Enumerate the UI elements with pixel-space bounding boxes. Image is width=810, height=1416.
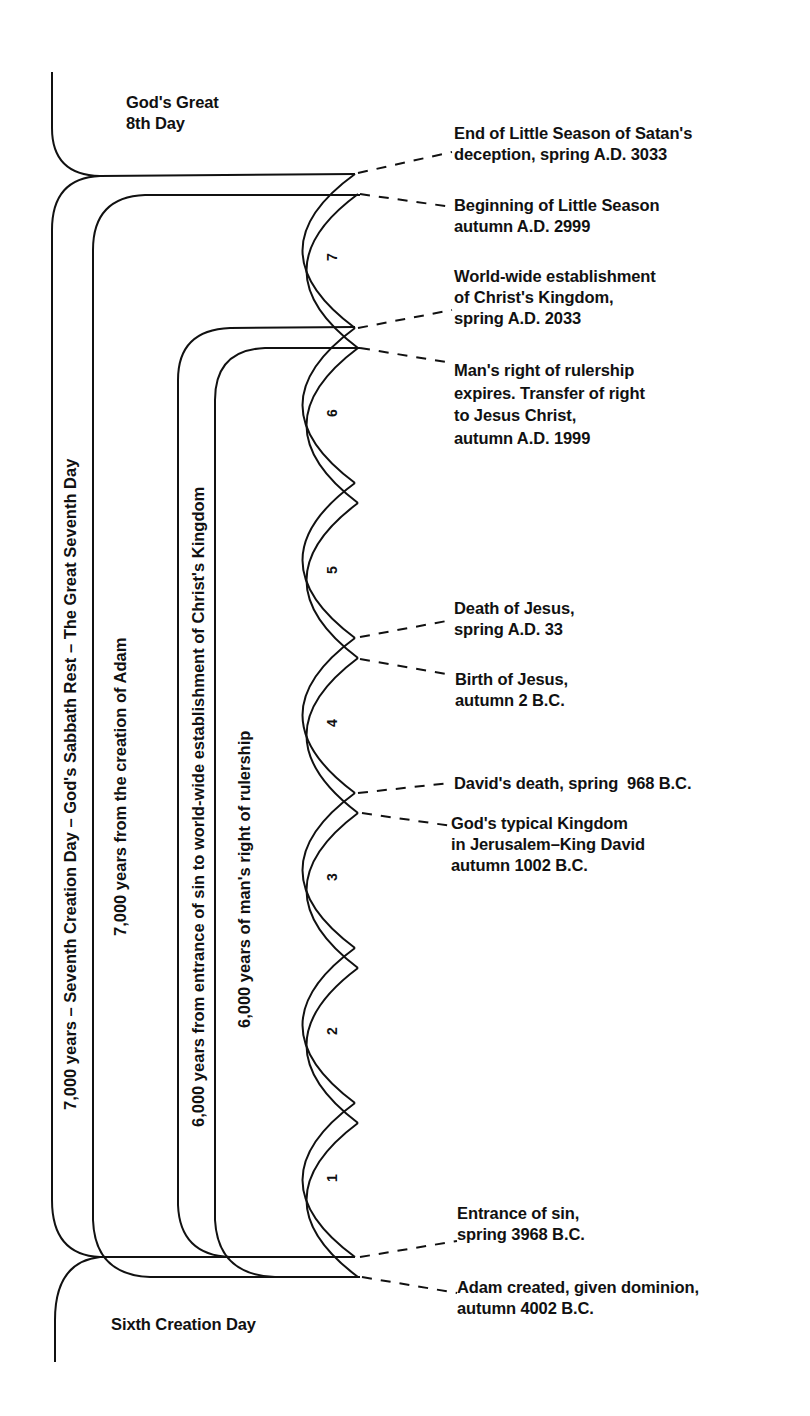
bracket-label-sin-to-kingdom: 6,000 years from entrance of sin to worl…	[188, 487, 208, 1127]
leader-entrance-of-sin	[360, 1241, 457, 1257]
leader-begin-little-season	[360, 194, 452, 207]
event-death-of-jesus: Death of Jesus, spring A.D. 33	[454, 598, 574, 640]
event-begin-little-season: Beginning of Little Season autumn A.D. 2…	[454, 195, 660, 237]
leader-lines	[358, 152, 457, 1293]
millennium-1: 1	[324, 1170, 340, 1186]
sixth-day-boundary	[55, 1257, 100, 1362]
eighth-day-boundary	[52, 72, 100, 176]
event-birth-of-jesus: Birth of Jesus, autumn 2 B.C.	[455, 669, 568, 711]
leader-end-little-season	[358, 152, 452, 173]
leader-rulership-expires	[360, 348, 452, 363]
millennium-3: 3	[324, 869, 340, 885]
leader-kingdom-established	[358, 310, 452, 328]
bracket-label-seventh-day: 7,000 years – Seventh Creation Day – God…	[60, 459, 80, 1110]
event-entrance-of-sin: Entrance of sin, spring 3968 B.C.	[457, 1203, 585, 1245]
event-adam-created: Adam created, given dominion, autumn 400…	[457, 1277, 699, 1319]
event-end-little-season: End of Little Season of Satan's deceptio…	[454, 123, 692, 165]
leader-birth-of-jesus	[360, 659, 452, 675]
bracket-label-mans-rule: 6,000 years of man's right of rulership	[234, 731, 254, 1028]
leader-death-of-jesus	[360, 620, 452, 637]
eighth-day-label: God's Great 8th Day	[126, 92, 219, 134]
event-rulership-expires: Man's right of rulership expires. Transf…	[454, 359, 645, 449]
event-kingdom-established: World-wide establishment of Christ's Kin…	[454, 266, 656, 329]
millennium-arcs-b	[307, 194, 359, 1277]
bracket-label-from-adam: 7,000 years from the creation of Adam	[110, 638, 130, 936]
millennium-4: 4	[324, 715, 340, 731]
leader-typical-kingdom	[362, 813, 452, 826]
event-davids-death: David's death, spring 968 B.C.	[454, 773, 691, 794]
millennium-7: 7	[324, 249, 340, 265]
millennium-6: 6	[324, 405, 340, 421]
event-typical-kingdom: God's typical Kingdom in Jerusalem–King …	[451, 813, 645, 876]
bracket-from-adam	[93, 195, 360, 1277]
leader-davids-death	[358, 783, 450, 793]
sixth-day-label: Sixth Creation Day	[111, 1314, 256, 1335]
leader-adam-created	[362, 1277, 457, 1293]
millennium-5: 5	[324, 562, 340, 578]
millennium-2: 2	[324, 1023, 340, 1039]
